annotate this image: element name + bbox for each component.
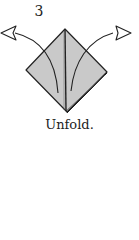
step-caption: Unfold.: [0, 117, 139, 133]
